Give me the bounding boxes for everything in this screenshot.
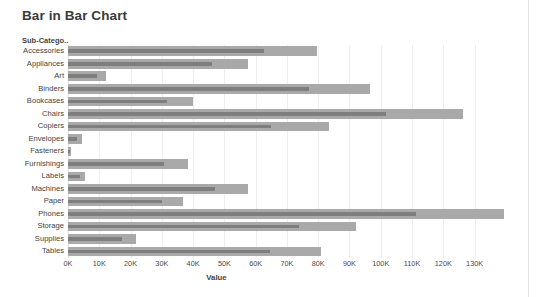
inner-bar[interactable] [68,137,77,141]
inner-bar[interactable] [68,125,271,129]
tick-label-130K: 130K [466,259,483,268]
category-label-supplies[interactable]: Supplies [35,233,64,246]
category-label-art[interactable]: Art [54,70,64,83]
category-label-envelopes[interactable]: Envelopes [29,133,64,146]
category-label-labels[interactable]: Labels [42,170,64,183]
tick-label-60K: 60K [249,259,262,268]
category-label-binders[interactable]: Binders [38,83,64,96]
bar-row[interactable]: Envelopes [68,133,509,146]
inner-bar[interactable] [68,237,122,241]
inner-bar[interactable] [68,187,215,191]
bar-row[interactable]: Furnishings [68,158,509,171]
bar-row[interactable]: Storage [68,220,509,233]
tick-label-90K: 90K [343,259,356,268]
tick-label-100K: 100K [372,259,389,268]
tick-label-80K: 80K [312,259,325,268]
inner-bar[interactable] [68,112,386,116]
bar-row[interactable]: Copiers [68,120,509,133]
bar-row[interactable]: Paper [68,195,509,208]
category-label-paper[interactable]: Paper [44,195,64,208]
bar-row[interactable]: Bookcases [68,95,509,108]
inner-bar[interactable] [68,200,162,204]
inner-bar[interactable] [68,74,97,78]
value-axis-title-text: Value [206,273,226,282]
inner-bar[interactable] [68,162,164,166]
tick-label-0K: 0K [64,259,73,268]
inner-bar[interactable] [68,62,212,66]
tick-label-10K: 10K [93,259,106,268]
tick-label-120K: 120K [435,259,452,268]
tick-label-110K: 110K [404,259,421,268]
bar-row[interactable]: Phones [68,208,509,221]
category-label-fasteners[interactable]: Fasteners [30,145,64,158]
bar-row[interactable]: Art [68,70,509,83]
tick-label-50K: 50K [218,259,231,268]
category-label-tables[interactable]: Tables [42,245,64,258]
category-label-chairs[interactable]: Chairs [42,108,64,121]
category-axis-header: Sub-Catego.. [22,36,68,45]
inner-bar[interactable] [68,150,70,154]
bar-row[interactable]: Binders [68,83,509,96]
category-label-machines[interactable]: Machines [32,183,65,196]
page-title: Bar in Bar Chart [22,8,127,23]
tick-label-40K: 40K [187,259,200,268]
inner-bar[interactable] [68,100,167,104]
bar-row[interactable]: Supplies [68,233,509,246]
inner-bar[interactable] [68,49,264,53]
bar-row[interactable]: Labels [68,170,509,183]
bar-row[interactable]: Tables [68,245,509,258]
bar-row[interactable]: Accessories [68,45,509,58]
value-axis-title: Value [68,273,509,282]
tick-label-30K: 30K [155,259,168,268]
bar-row[interactable]: Fasteners [68,145,509,158]
visualization-frame: Bar in Bar Chart Sub-Catego.. Accessorie… [0,0,529,297]
category-label-storage[interactable]: Storage [37,220,64,233]
inner-bar[interactable] [68,87,309,91]
category-label-phones[interactable]: Phones [38,208,64,221]
bar-row[interactable]: Machines [68,183,509,196]
plot-area: AccessoriesAppliancesArtBindersBookcases… [68,45,509,258]
category-label-appliances[interactable]: Appliances [27,58,64,71]
inner-bar[interactable] [68,250,270,254]
inner-bar[interactable] [68,212,416,216]
tick-label-70K: 70K [280,259,293,268]
category-label-bookcases[interactable]: Bookcases [27,95,64,108]
category-label-furnishings[interactable]: Furnishings [25,158,64,171]
inner-bar[interactable] [68,175,80,179]
tick-label-20K: 20K [124,259,137,268]
bar-row[interactable]: Chairs [68,108,509,121]
category-label-copiers[interactable]: Copiers [38,120,64,133]
value-axis-ticks: 0K10K20K30K40K50K60K70K80K90K100K110K120… [68,259,509,271]
bar-row[interactable]: Appliances [68,58,509,71]
category-label-accessories[interactable]: Accessories [23,45,64,58]
inner-bar[interactable] [68,225,299,229]
bar-rows: AccessoriesAppliancesArtBindersBookcases… [68,45,509,258]
